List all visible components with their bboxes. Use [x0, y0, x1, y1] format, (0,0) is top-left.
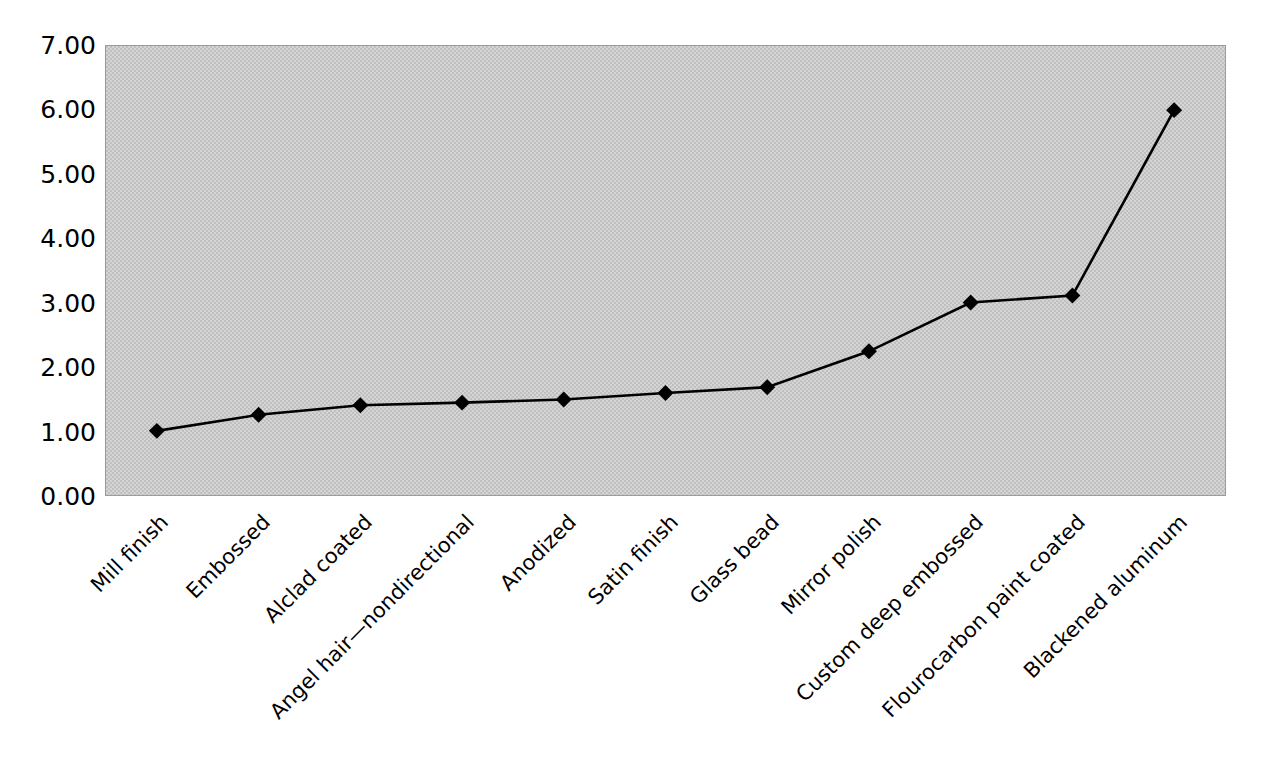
x-axis: Mill finishEmbossedAlclad coatedAngel ha… [0, 0, 1266, 768]
chart-container: 7.00 6.00 5.00 4.00 3.00 2.00 1.00 0.00 … [0, 0, 1266, 768]
